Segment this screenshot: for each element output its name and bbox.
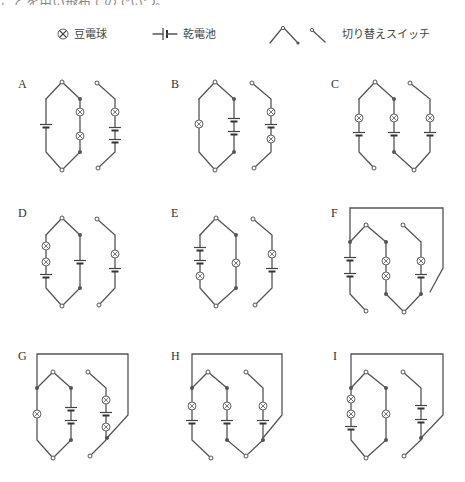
bulb-icon — [76, 132, 84, 140]
circuit-label: I — [333, 349, 337, 363]
switch-terminal — [95, 81, 99, 85]
switch-terminal — [364, 309, 368, 313]
circuit-label: C — [331, 77, 339, 91]
switch-pivot — [206, 370, 210, 374]
switch-pivot — [60, 216, 64, 220]
switch-pivot — [402, 310, 406, 314]
junction-dot — [232, 150, 236, 154]
circuit-g: G — [18, 349, 128, 460]
bulb-icon — [417, 257, 425, 265]
switch-terminal — [251, 217, 255, 221]
circuit-c: C — [331, 77, 436, 172]
bulb-icon — [33, 410, 41, 418]
junction-dot — [384, 240, 388, 244]
junction-dot — [190, 386, 194, 390]
junction-dot — [225, 386, 229, 390]
switch-pivot — [60, 80, 64, 84]
switch-terminal — [252, 166, 256, 170]
battery-icon — [266, 268, 278, 272]
junction-dot — [78, 150, 82, 154]
switch-pivot — [213, 80, 217, 84]
battery-icon — [100, 412, 112, 416]
circuit-label: B — [171, 77, 179, 91]
battery-icon — [186, 420, 198, 424]
junction-dot — [384, 438, 388, 442]
junction-dot — [78, 97, 82, 101]
battery-icon — [109, 127, 121, 131]
battery-icon — [228, 118, 240, 122]
battery-icon — [194, 260, 206, 264]
switch-terminal — [408, 81, 412, 85]
bulb-icon — [355, 114, 363, 122]
circuit-a: A — [18, 77, 121, 172]
switch-pivot — [373, 80, 377, 84]
junction-dot — [35, 386, 39, 390]
bulb-icon — [42, 242, 50, 250]
battery-icon — [221, 420, 233, 424]
bulb-icon — [111, 250, 119, 258]
circuit-panels: ABCDEFGHI — [18, 77, 443, 460]
junction-dot — [348, 240, 352, 244]
circuit-b: B — [171, 77, 277, 172]
bulb-icon — [102, 423, 110, 431]
battery-icon — [345, 426, 357, 430]
bulb-icon — [267, 108, 275, 116]
battery-icon — [265, 124, 277, 128]
switch-terminal — [402, 454, 406, 458]
bulb-icon — [232, 259, 240, 267]
junction-dot — [69, 386, 73, 390]
battery-icon — [65, 420, 77, 424]
bulb-icon — [382, 257, 390, 265]
switch-terminal — [401, 223, 405, 227]
switch-terminal — [401, 370, 405, 374]
bulb-icon — [195, 120, 203, 128]
switch-terminal — [86, 370, 90, 374]
switch-pivot — [51, 370, 55, 374]
bulb-icon — [382, 410, 390, 418]
junction-dot — [392, 150, 396, 154]
battery-icon — [228, 131, 240, 135]
switch-pivot — [364, 223, 368, 227]
junction-dot — [419, 292, 423, 296]
switch-terminal — [97, 303, 101, 307]
bulb-icon — [382, 272, 390, 280]
bulb-icon — [347, 410, 355, 418]
switch-pivot — [51, 456, 55, 460]
circuit-diagram: 豆電球 乾電池 切り替えスイッチ ABCDEFGHI — [0, 0, 465, 482]
switch-terminal — [250, 81, 254, 85]
battery-icon — [388, 132, 400, 136]
battery-icon — [353, 132, 365, 136]
switch-pivot — [214, 216, 218, 220]
switch-pivot — [364, 456, 368, 460]
switch-terminal — [372, 166, 376, 170]
circuit-label: F — [331, 206, 338, 220]
battery-icon — [344, 257, 356, 261]
junction-dot — [234, 286, 238, 290]
switch-terminal — [95, 217, 99, 221]
bulb-icon — [42, 258, 50, 266]
junction-dot — [261, 438, 265, 442]
battery-icon — [65, 407, 77, 411]
circuit-f: F — [331, 206, 443, 314]
switch-pivot — [60, 168, 64, 172]
legend-bulb-label: 豆電球 — [74, 27, 107, 41]
switch-terminal — [96, 166, 100, 170]
battery-icon — [194, 247, 206, 251]
battery-icon — [109, 268, 121, 272]
bulb-icon — [259, 402, 267, 410]
circuit-label: D — [18, 206, 27, 220]
bulb-icon — [188, 402, 196, 410]
switch-pivot — [364, 370, 368, 374]
bulb-icon — [347, 395, 355, 403]
junction-dot — [384, 386, 388, 390]
bulb-icon — [196, 272, 204, 280]
junction-dot — [232, 97, 236, 101]
battery-icon — [415, 274, 427, 278]
bulb-icon — [426, 114, 434, 122]
junction-dot — [105, 436, 109, 440]
switch-pivot — [412, 168, 416, 172]
circuit-label: A — [18, 77, 27, 91]
battery-icon — [415, 419, 427, 423]
junction-dot — [349, 386, 353, 390]
bulb-icon — [111, 108, 119, 116]
